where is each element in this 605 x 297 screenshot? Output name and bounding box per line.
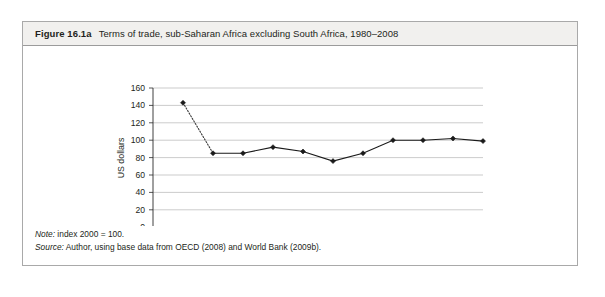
figure-box: Figure 16.1a Terms of trade, sub-Saharan… [22,21,578,266]
data-point [331,159,336,164]
series-gap-segment [183,103,213,153]
figure-label: Figure 16.1a [23,28,92,39]
data-point [241,151,246,156]
chart-plot-area: 160 140 120 100 80 60 40 20 0 US dollars [23,46,577,226]
line-chart: 160 140 120 100 80 60 40 20 0 US dollars [23,46,579,226]
data-point [181,100,186,105]
note-label: Note: [35,229,55,239]
data-point [391,138,396,143]
y-tick-label: 160 [131,83,146,93]
note-text: index 2000 = 100. [55,229,124,239]
y-tick-label: 100 [131,135,146,145]
figure-header: Figure 16.1a Terms of trade, sub-Saharan… [23,22,577,46]
figure-caption: Terms of trade, sub-Saharan Africa exclu… [92,28,399,39]
gridlines [153,88,483,210]
y-tick-label: 20 [135,205,145,215]
data-point [271,145,276,150]
y-axis-title: US dollars [116,137,126,178]
data-point [481,139,486,144]
source-label: Source: [35,242,64,252]
notes-block: Note: index 2000 = 100. Source: Author, … [35,228,555,254]
y-tick-label: 120 [131,118,146,128]
source-line: Source: Author, using base data from OEC… [35,241,555,254]
source-text: Author, using base data from OECD (2008)… [64,242,321,252]
y-tick-label: 0 [140,222,145,226]
data-point [421,138,426,143]
y-tick-label: 40 [135,187,145,197]
series-markers [181,100,486,163]
data-point [301,149,306,154]
y-tick-label: 80 [135,153,145,163]
y-axis-ticks [149,88,153,226]
y-tick-label: 140 [131,100,146,110]
note-line: Note: index 2000 = 100. [35,228,555,241]
y-tick-label: 60 [135,170,145,180]
data-point [211,151,216,156]
data-point [361,151,366,156]
